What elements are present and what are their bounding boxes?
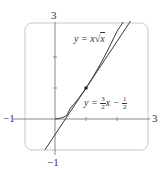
tangent-eq-prefix: y = xyxy=(84,97,100,108)
tangent-point xyxy=(84,86,88,90)
curve-equation-label: y = x√x xyxy=(74,34,105,44)
frac-den: 2 xyxy=(122,104,128,111)
fraction-one-half: 12 xyxy=(122,96,128,111)
x-max-tick-label: 3 xyxy=(152,113,158,124)
tangent-equation-label: y = 32x − 12 xyxy=(84,96,127,111)
curve-eq-radicand: x xyxy=(100,32,104,44)
y-max-tick-label: 3 xyxy=(51,10,57,21)
tangent-eq-mid: x − xyxy=(106,97,122,108)
x-min-tick-label: −1 xyxy=(3,113,15,124)
curve-eq-text: y = x xyxy=(74,33,95,44)
y-min-tick-label: −1 xyxy=(47,157,59,168)
graph-canvas xyxy=(0,0,168,170)
